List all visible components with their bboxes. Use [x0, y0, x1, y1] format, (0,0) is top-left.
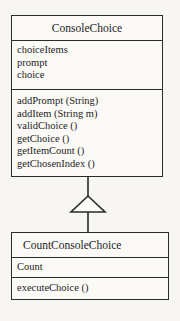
class-name-compartment: ConsoleChoice — [12, 16, 162, 40]
method-item: getChoice () — [17, 133, 157, 146]
method-item: getItemCount () — [17, 145, 157, 158]
class-methods-compartment: executeChoice () — [12, 277, 168, 301]
attribute-item: choice — [17, 69, 157, 82]
class-methods-compartment: addPrompt (String) addItem (String m) va… — [12, 89, 162, 178]
attribute-item: Count — [17, 261, 163, 274]
method-item: addItem (String m) — [17, 108, 157, 121]
class-box-console-choice[interactable]: ConsoleChoice choiceItems prompt choice … — [11, 15, 163, 177]
method-item: addPrompt (String) — [17, 95, 157, 108]
class-attributes-compartment: choiceItems prompt choice — [12, 40, 162, 89]
class-name-label: CountConsoleChoice — [17, 235, 163, 255]
class-attributes-compartment: Count — [12, 257, 168, 277]
uml-class-diagram: ConsoleChoice choiceItems prompt choice … — [0, 0, 180, 321]
attribute-item: choiceItems — [17, 44, 157, 57]
class-name-label: ConsoleChoice — [17, 18, 157, 38]
method-item: validChoice () — [17, 120, 157, 133]
class-name-compartment: CountConsoleChoice — [12, 233, 168, 257]
class-box-count-console-choice[interactable]: CountConsoleChoice Count executeChoice (… — [11, 232, 169, 300]
method-item: executeChoice () — [17, 282, 163, 295]
attribute-item: prompt — [17, 57, 157, 70]
method-item: getChosenIndex () — [17, 158, 157, 171]
generalization-arrowhead-icon — [71, 196, 105, 212]
